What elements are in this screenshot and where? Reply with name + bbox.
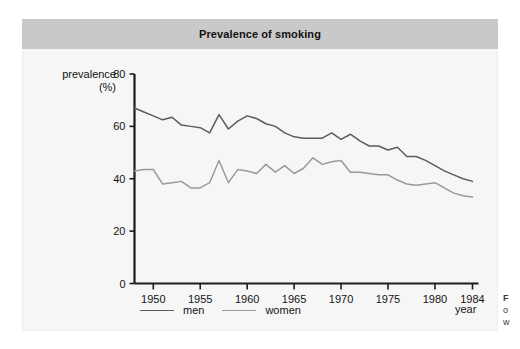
caption-line-1: F <box>503 292 520 304</box>
plot-area: 0204060801950195519601965197019751980198… <box>0 0 520 349</box>
series-line-men <box>135 108 473 181</box>
figure-page: Prevalence of smoking prevalence (%) 020… <box>0 0 520 349</box>
legend-label-women: women <box>265 304 300 316</box>
caption-sliver: F o w <box>503 292 520 328</box>
legend-label-men: men <box>183 304 204 316</box>
x-tick-label: 1975 <box>376 293 400 305</box>
y-tick-label: 40 <box>113 173 125 185</box>
chart-legend: men women <box>140 302 319 318</box>
y-tick-label: 0 <box>119 278 125 290</box>
line-chart: 0204060801950195519601965197019751980198… <box>0 0 520 349</box>
caption-line-2: o <box>503 304 520 316</box>
y-tick-label: 60 <box>113 120 125 132</box>
x-tick-label: 1970 <box>329 293 353 305</box>
y-tick-label: 80 <box>113 68 125 80</box>
x-tick-label: 1980 <box>423 293 447 305</box>
series-line-women <box>135 158 473 197</box>
x-axis-label: year <box>455 303 476 315</box>
caption-line-3: w <box>503 316 520 328</box>
y-tick-label: 20 <box>113 225 125 237</box>
legend-swatch-women <box>222 310 256 311</box>
legend-item-women: women <box>222 304 300 316</box>
legend-swatch-men <box>140 310 174 311</box>
legend-item-men: men <box>140 304 204 316</box>
